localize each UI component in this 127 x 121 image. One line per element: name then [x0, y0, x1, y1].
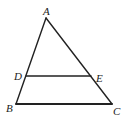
label-b: B	[6, 102, 13, 114]
label-d: D	[13, 70, 22, 82]
segment-ac	[46, 18, 112, 104]
segment-ab	[16, 18, 46, 104]
label-c: C	[113, 105, 121, 117]
label-e: E	[95, 72, 103, 84]
label-a: A	[42, 5, 50, 17]
triangle-diagram: A D E B C	[0, 0, 127, 121]
